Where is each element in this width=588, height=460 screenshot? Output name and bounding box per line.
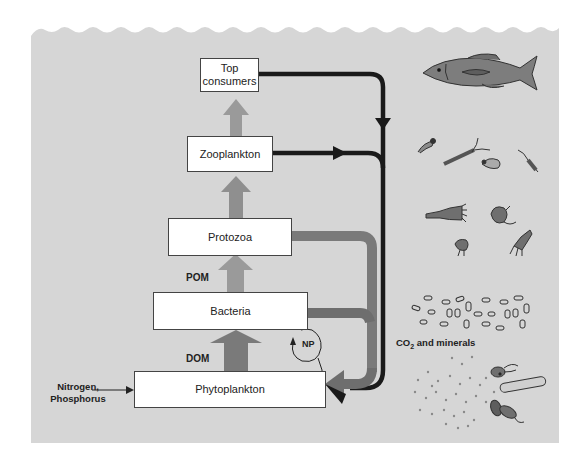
nutrients-label: Nitrogen, Phosphorus [48, 381, 108, 405]
node-top-consumers: Top consumers [200, 58, 259, 92]
np-label: NP [302, 338, 315, 350]
node-zooplankton: Zooplankton [187, 136, 273, 172]
node-top-consumers-line1: Top [221, 62, 239, 75]
node-bacteria: Bacteria [153, 292, 308, 330]
food-web-diagram: Top consumers Zooplankton Protozoa Bacte… [0, 0, 588, 460]
node-protozoa-label: Protozoa [208, 231, 252, 244]
node-top-consumers-line2: consumers [203, 75, 257, 88]
node-bacteria-label: Bacteria [210, 305, 250, 318]
pom-label: POM [186, 272, 209, 284]
node-zooplankton-label: Zooplankton [200, 148, 261, 161]
dom-label: DOM [186, 353, 209, 365]
co2-minerals-label: CO2 and minerals [396, 337, 475, 353]
co2-suffix: and minerals [414, 337, 475, 348]
nutrients-line1: Nitrogen, [48, 381, 108, 393]
nutrients-line2: Phosphorus [48, 393, 108, 405]
node-phytoplankton-label: Phytoplankton [195, 383, 265, 396]
co2-prefix: CO [396, 337, 410, 348]
node-protozoa: Protozoa [168, 218, 292, 256]
node-phytoplankton: Phytoplankton [134, 371, 326, 408]
